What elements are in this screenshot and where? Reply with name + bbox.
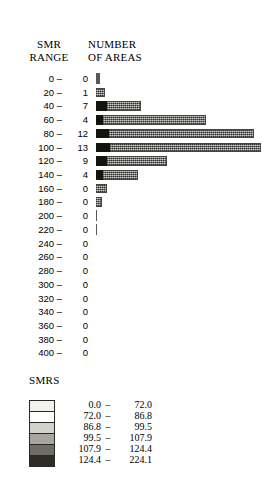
row-bar-area xyxy=(96,292,262,306)
row-bar-area xyxy=(96,168,262,182)
legend-label-column: 0.0–72.072.0–86.886.8–99.599.5–107.9107.… xyxy=(56,399,152,465)
legend-range-high: 86.8 xyxy=(115,410,152,421)
row-range-label: 100 – xyxy=(0,141,62,155)
histogram-row: 320 –0 xyxy=(0,292,262,306)
row-range-label: 240 – xyxy=(0,237,62,251)
row-count-value: 4 xyxy=(66,113,88,127)
histogram-row: 280 –0 xyxy=(0,264,262,278)
column-header-smr-range: SMR RANGE xyxy=(18,38,80,63)
row-count-value: 0 xyxy=(66,278,88,292)
bar-dark-segment xyxy=(96,101,107,111)
legend-entry: 124.4–224.1 xyxy=(56,454,152,465)
legend-entry: 107.9–124.4 xyxy=(56,443,152,454)
legend-entry: 99.5–107.9 xyxy=(56,432,152,443)
legend-range-high: 107.9 xyxy=(115,432,152,443)
row-bar-area xyxy=(96,250,262,264)
bar-dark-segment xyxy=(96,129,109,139)
legend-swatch xyxy=(30,422,54,433)
row-range-label: 40 – xyxy=(0,99,62,113)
row-bar-area xyxy=(96,113,262,127)
histogram-bar xyxy=(96,184,107,194)
legend-range-dash: – xyxy=(101,454,115,465)
row-count-value: 0 xyxy=(66,346,88,360)
row-bar-area xyxy=(96,154,262,168)
row-range-label: 400 – xyxy=(0,346,62,360)
row-count-value: 0 xyxy=(66,237,88,251)
row-bar-area xyxy=(96,127,262,141)
legend-swatch xyxy=(30,411,54,422)
histogram-bar xyxy=(96,88,105,98)
row-range-label: 120 – xyxy=(0,154,62,168)
legend-range-low: 99.5 xyxy=(66,432,101,443)
legend-entry: 0.0–72.0 xyxy=(56,399,152,410)
histogram-row: 140 –4 xyxy=(0,168,262,182)
histogram-row: 40 –7 xyxy=(0,99,262,113)
row-range-label: 340 – xyxy=(0,305,62,319)
column-header-number-of-areas: NUMBER OF AREAS xyxy=(88,38,182,63)
histogram-bar xyxy=(96,156,167,166)
row-count-value: 0 xyxy=(66,72,88,86)
legend-entry: 72.0–86.8 xyxy=(56,410,152,421)
legend-range-low: 124.4 xyxy=(66,454,101,465)
row-bar-area xyxy=(96,319,262,333)
histogram-row: 160 –0 xyxy=(0,182,262,196)
row-range-label: 140 – xyxy=(0,168,62,182)
row-count-value: 0 xyxy=(66,319,88,333)
chart-header: SMR RANGE NUMBER OF AREAS xyxy=(0,38,262,72)
row-range-label: 0 – xyxy=(0,72,62,86)
histogram-bar xyxy=(96,197,102,207)
bar-pattern-segment xyxy=(107,156,167,166)
legend-range-high: 124.4 xyxy=(115,443,152,454)
row-count-value: 4 xyxy=(66,168,88,182)
legend-range-dash: – xyxy=(101,443,115,454)
row-count-value: 0 xyxy=(66,182,88,196)
row-bar-area xyxy=(96,182,262,196)
histogram-bar xyxy=(96,210,97,221)
legend-range-dash: – xyxy=(101,399,115,410)
row-bar-area xyxy=(96,264,262,278)
histogram-bar xyxy=(96,224,97,235)
row-range-label: 300 – xyxy=(0,278,62,292)
bar-dark-segment xyxy=(96,170,103,180)
row-count-value: 0 xyxy=(66,250,88,264)
histogram-row: 20 –1 xyxy=(0,86,262,100)
legend-range-low: 86.8 xyxy=(66,421,101,432)
row-range-label: 380 – xyxy=(0,333,62,347)
histogram-row: 360 –0 xyxy=(0,319,262,333)
legend-swatch xyxy=(30,444,54,455)
histogram-row: 100 –13 xyxy=(0,141,262,155)
bar-pattern-segment xyxy=(109,129,254,139)
histogram-row: 180 –0 xyxy=(0,195,262,209)
histogram-bar xyxy=(96,129,254,139)
bar-pattern-segment xyxy=(96,197,102,207)
histogram-row: 400 –0 xyxy=(0,346,262,360)
histogram-row: 80 –12 xyxy=(0,127,262,141)
histogram-row: 220 –0 xyxy=(0,223,262,237)
row-bar-area xyxy=(96,72,262,86)
legend-swatch xyxy=(30,455,54,466)
row-bar-area xyxy=(96,223,262,237)
row-count-value: 12 xyxy=(66,127,88,141)
row-range-label: 360 – xyxy=(0,319,62,333)
legend-range-dash: – xyxy=(101,410,115,421)
legend-range-high: 72.0 xyxy=(115,399,152,410)
row-range-label: 280 – xyxy=(0,264,62,278)
histogram-row: 200 –0 xyxy=(0,209,262,223)
legend-swatch xyxy=(30,401,54,411)
row-count-value: 9 xyxy=(66,154,88,168)
legend-range-high: 224.1 xyxy=(115,454,152,465)
row-bar-area xyxy=(96,237,262,251)
histogram-rows: 0 –020 –140 –760 –480 –12100 –13120 –914… xyxy=(0,72,262,360)
bar-pattern-segment xyxy=(110,143,261,153)
histogram-row: 0 –0 xyxy=(0,72,262,86)
row-bar-area xyxy=(96,333,262,347)
row-range-label: 320 – xyxy=(0,292,62,306)
histogram-row: 60 –4 xyxy=(0,113,262,127)
row-count-value: 13 xyxy=(66,141,88,155)
legend-swatch xyxy=(30,433,54,444)
histogram-row: 240 –0 xyxy=(0,237,262,251)
histogram-row: 300 –0 xyxy=(0,278,262,292)
bar-pattern-segment xyxy=(103,115,206,125)
bar-dark-segment xyxy=(96,115,103,125)
histogram-row: 260 –0 xyxy=(0,250,262,264)
